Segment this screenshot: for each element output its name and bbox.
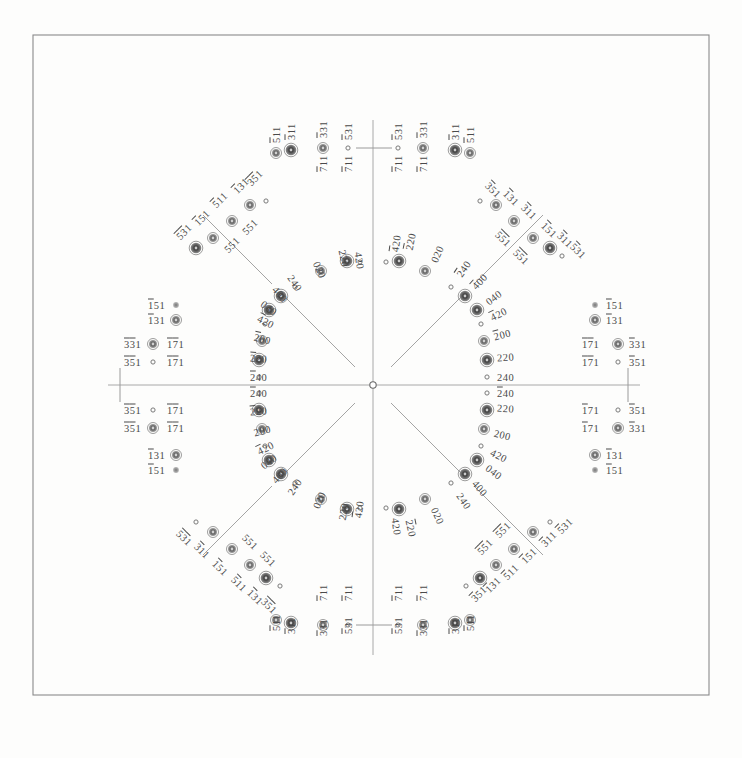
- spot-ring: [616, 408, 620, 412]
- diffraction-spots: [148, 143, 624, 631]
- spot-oll-1: [151, 408, 155, 412]
- spot-ring: [560, 254, 564, 258]
- spot-center-dot: [152, 343, 155, 346]
- spot-dlr-3: [509, 544, 520, 555]
- diagonal-line-5: [474, 215, 543, 284]
- spot-q4-g: [479, 444, 483, 448]
- spot-ring: [479, 322, 483, 326]
- spot-ring: [278, 584, 282, 588]
- spot-q4-j: [485, 391, 489, 395]
- spot-center-dot: [261, 428, 264, 431]
- spot-q2-i: [252, 353, 266, 367]
- spot-q4-d: [449, 481, 453, 485]
- spot-q3-e: [274, 467, 288, 481]
- spot-center-dot: [486, 359, 489, 362]
- spot-center-dot: [249, 564, 252, 567]
- spot-ring: [293, 285, 297, 289]
- spot-center-dot: [486, 409, 489, 412]
- spot-ring: [384, 260, 388, 264]
- spot-ring: [384, 506, 388, 510]
- plate-svg: [0, 0, 742, 758]
- spot-ring: [396, 146, 400, 150]
- spot-center-dot: [212, 237, 215, 240]
- spot-q1-i: [480, 353, 494, 367]
- spot-center-dot: [249, 204, 252, 207]
- spot-center-dot: [617, 427, 620, 430]
- spot-center-dot: [424, 270, 427, 273]
- spot-obr-3: [418, 620, 429, 631]
- spot-center-dot: [594, 454, 597, 457]
- spot-ring: [264, 199, 268, 203]
- spot-q1-g: [479, 322, 483, 326]
- spot-center-dot: [479, 577, 482, 580]
- spot-center-dot: [290, 149, 293, 152]
- spot-core: [173, 467, 179, 473]
- spot-center-dot: [549, 247, 552, 250]
- spot-ring: [151, 408, 155, 412]
- spot-core: [592, 467, 598, 473]
- spot-q2-j: [257, 375, 261, 379]
- spot-dlr-1: [548, 520, 552, 524]
- spot-q2-a: [358, 260, 362, 264]
- spot-q1-b: [392, 254, 406, 268]
- spot-oll-3: [171, 450, 182, 461]
- spot-ring: [151, 360, 155, 364]
- plate-border: [33, 35, 709, 695]
- center-beam-stop: [370, 382, 376, 388]
- spot-center-dot: [195, 247, 198, 250]
- spot-center-dot: [454, 622, 457, 625]
- diagonal-line-1: [391, 298, 460, 367]
- spot-center-dot: [268, 309, 271, 312]
- spot-center-dot: [495, 564, 498, 567]
- spot-ring: [396, 623, 400, 627]
- spot-dlr-7: [473, 571, 487, 585]
- spot-dll-3: [227, 544, 238, 555]
- spot-obl-3: [318, 620, 329, 631]
- spot-center-dot: [464, 473, 467, 476]
- spot-center-dot: [422, 147, 425, 150]
- spot-otl-5: [284, 143, 298, 157]
- spot-q1-c: [420, 266, 431, 277]
- spot-ring: [464, 584, 468, 588]
- spot-dur-8: [560, 254, 564, 258]
- diagonal-line-3: [391, 403, 460, 472]
- spot-center-dot: [322, 624, 325, 627]
- spot-center-dot: [290, 622, 293, 625]
- spot-otr-1: [396, 146, 400, 150]
- spot-center-dot: [275, 152, 278, 155]
- spot-center-dot: [483, 340, 486, 343]
- spot-core: [592, 302, 598, 308]
- spot-dur-3: [509, 216, 520, 227]
- spot-dur-2: [491, 200, 502, 211]
- spot-center-dot: [398, 508, 401, 511]
- spot-q1-e: [458, 289, 472, 303]
- spot-olu-2: [171, 315, 182, 326]
- spot-ring: [449, 481, 453, 485]
- spot-orl-1: [616, 408, 620, 412]
- spot-dul-5: [208, 233, 219, 244]
- spot-q3-a: [358, 506, 362, 510]
- spot-q2-e: [274, 289, 288, 303]
- spot-center-dot: [476, 459, 479, 462]
- spot-q4-a: [384, 506, 388, 510]
- spot-center-dot: [231, 548, 234, 551]
- spot-dul-2: [245, 200, 256, 211]
- spot-center-dot: [152, 427, 155, 430]
- spot-ring: [479, 444, 483, 448]
- spot-olu-1: [173, 302, 179, 308]
- spot-oru-1: [592, 302, 598, 308]
- spot-core: [173, 302, 179, 308]
- spot-q2-b: [340, 254, 354, 268]
- spot-oru-4: [616, 360, 620, 364]
- spot-otr-6: [465, 148, 476, 159]
- spot-ring: [293, 481, 297, 485]
- spot-orl-3: [590, 450, 601, 461]
- spot-center-dot: [398, 260, 401, 263]
- spot-center-dot: [258, 409, 261, 412]
- spot-q1-a: [384, 260, 388, 264]
- spot-dll-5: [245, 560, 256, 571]
- spot-dur-5: [528, 233, 539, 244]
- diagonal-line-4: [203, 215, 272, 284]
- spot-center-dot: [532, 237, 535, 240]
- spot-q4-h: [479, 424, 490, 435]
